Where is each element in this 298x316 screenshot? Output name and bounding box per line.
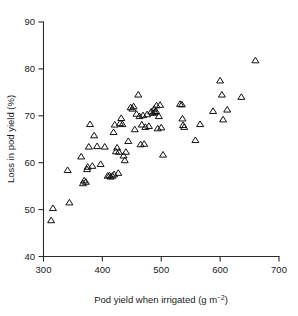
data-point-marker xyxy=(218,91,225,97)
data-point-marker xyxy=(118,115,125,121)
data-point-marker xyxy=(97,161,104,167)
data-point-marker xyxy=(91,132,98,138)
scatter-plot-figure: 405060708090 300400500600700 Pod yield w… xyxy=(0,0,298,316)
x-tick-label: 600 xyxy=(212,264,228,275)
y-axis-ticks xyxy=(39,22,44,257)
axis-frame xyxy=(44,22,280,257)
data-point-marker xyxy=(89,163,96,169)
data-point-group xyxy=(48,57,259,223)
x-tick-label: 300 xyxy=(36,264,52,275)
data-point-marker xyxy=(197,121,204,127)
data-point-marker xyxy=(135,91,142,97)
y-axis-title: Loss in pod yield (%) xyxy=(5,95,16,183)
data-point-marker xyxy=(110,129,117,135)
y-tick-label: 80 xyxy=(24,63,35,74)
data-point-marker xyxy=(49,205,56,211)
data-point-marker xyxy=(66,199,73,205)
y-tick-label: 40 xyxy=(24,251,35,262)
data-point-marker xyxy=(224,106,231,112)
data-point-marker xyxy=(101,144,108,150)
data-point-marker xyxy=(131,126,138,132)
data-point-marker xyxy=(85,144,92,150)
data-point-marker xyxy=(220,116,227,122)
y-tick-label: 70 xyxy=(24,110,35,121)
y-tick-label: 60 xyxy=(24,157,35,168)
data-point-marker xyxy=(48,217,55,223)
data-point-marker xyxy=(78,153,85,159)
data-point-marker xyxy=(94,143,101,149)
x-axis-title: Pod yield when irrigated (g m−2) xyxy=(94,294,228,305)
data-point-marker xyxy=(252,57,259,63)
data-point-marker xyxy=(179,115,186,121)
x-tick-label: 500 xyxy=(153,264,169,275)
data-point-marker xyxy=(238,94,245,100)
y-tick-label: 50 xyxy=(24,204,35,215)
data-point-marker xyxy=(87,121,94,127)
x-tick-label: 700 xyxy=(271,264,287,275)
data-point-marker xyxy=(217,77,224,83)
data-point-marker xyxy=(64,167,71,173)
scatter-plot-canvas: 405060708090 300400500600700 Pod yield w… xyxy=(0,0,298,316)
x-axis-ticks xyxy=(44,257,280,262)
y-tick-label: 90 xyxy=(24,16,35,27)
data-point-marker xyxy=(192,137,199,143)
y-axis-tick-labels: 405060708090 xyxy=(24,16,35,262)
data-point-marker xyxy=(210,108,217,114)
data-point-marker xyxy=(125,138,132,144)
x-tick-label: 400 xyxy=(94,264,110,275)
data-point-marker xyxy=(160,151,167,157)
x-axis-tick-labels: 300400500600700 xyxy=(36,264,287,275)
data-point-marker xyxy=(115,170,122,176)
data-point-marker xyxy=(122,149,129,155)
